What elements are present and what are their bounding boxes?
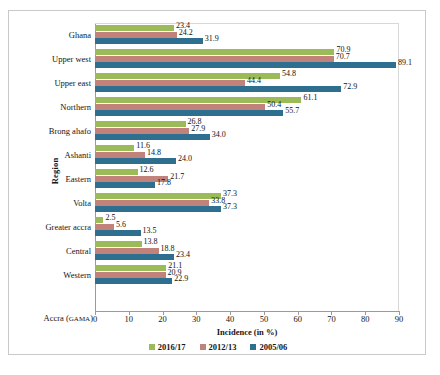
bar-value-label: 17.8 bbox=[157, 180, 171, 186]
accra-smallcaps: GAMA bbox=[69, 315, 90, 323]
x-tick-label: 30 bbox=[181, 314, 211, 324]
x-tick-label: 50 bbox=[249, 314, 279, 324]
accra-suffix: ) bbox=[90, 313, 93, 323]
legend-item[interactable]: 2012/13 bbox=[200, 342, 237, 352]
chart-screenshot: Region 0102030405060708090 Ghana23.424.2… bbox=[0, 0, 440, 375]
bar bbox=[95, 121, 186, 127]
legend-label: 2016/17 bbox=[158, 342, 186, 352]
bar-value-label: 72.9 bbox=[343, 84, 357, 90]
x-tick-label: 90 bbox=[384, 314, 414, 324]
bar bbox=[95, 38, 203, 44]
bar-value-label: 23.4 bbox=[176, 252, 190, 258]
accra-prefix: Accra ( bbox=[44, 313, 69, 323]
bar-value-label: 13.8 bbox=[144, 239, 158, 245]
bar bbox=[95, 145, 134, 151]
bar bbox=[95, 49, 334, 55]
bar-value-label: 27.9 bbox=[191, 126, 205, 132]
bar-value-label: 89.1 bbox=[398, 60, 412, 66]
bar-value-label: 61.1 bbox=[303, 95, 317, 101]
x-axis-line bbox=[95, 311, 400, 312]
bar bbox=[95, 152, 145, 158]
category-label: Upper east bbox=[7, 78, 91, 88]
category-label: Central bbox=[7, 246, 91, 256]
bar-value-label: 24.2 bbox=[179, 30, 193, 36]
bar bbox=[95, 200, 209, 206]
bar-group: Western21.120.922.9 bbox=[95, 263, 399, 287]
bar-group: Eastern12.621.717.8 bbox=[95, 167, 399, 191]
bar-value-label: 54.8 bbox=[282, 71, 296, 77]
bar bbox=[95, 25, 174, 31]
bar-value-label: 37.3 bbox=[223, 191, 237, 197]
category-label: Upper west bbox=[7, 54, 91, 64]
bar-group: Upper west70.970.789.1 bbox=[95, 47, 399, 71]
category-label: Ghana bbox=[7, 30, 91, 40]
bar-group: Ashanti11.614.824.0 bbox=[95, 143, 399, 167]
category-label: Greater accra bbox=[7, 222, 91, 232]
bar-value-label: 50.4 bbox=[267, 102, 281, 108]
bar bbox=[95, 80, 245, 86]
x-tick-label: 70 bbox=[316, 314, 346, 324]
legend-label: 2012/13 bbox=[209, 342, 237, 352]
category-label: Eastern bbox=[7, 174, 91, 184]
legend-item[interactable]: 2016/17 bbox=[149, 342, 186, 352]
chart-frame: Region 0102030405060708090 Ghana23.424.2… bbox=[8, 10, 426, 355]
bar bbox=[95, 254, 174, 260]
bar-value-label: 37.3 bbox=[223, 204, 237, 210]
bar-value-label: 55.7 bbox=[285, 108, 299, 114]
bar-value-label: 18.8 bbox=[161, 246, 175, 252]
bar bbox=[95, 56, 334, 62]
bar-group bbox=[95, 287, 399, 311]
bar-value-label: 21.7 bbox=[170, 174, 184, 180]
legend-item[interactable]: 2005/06 bbox=[250, 342, 287, 352]
bar-group: Upper east54.844.472.9 bbox=[95, 71, 399, 95]
bar bbox=[95, 158, 176, 164]
bar-value-label: 2.5 bbox=[105, 215, 115, 221]
bar bbox=[95, 278, 172, 284]
legend-label: 2005/06 bbox=[259, 342, 287, 352]
bar-value-label: 12.6 bbox=[140, 167, 154, 173]
legend-swatch-icon bbox=[149, 344, 155, 350]
bar bbox=[95, 248, 159, 254]
bar-group: Ghana23.424.231.9 bbox=[95, 23, 399, 47]
bar bbox=[95, 182, 155, 188]
bar-value-label: 22.9 bbox=[174, 276, 188, 282]
x-tick-label: 40 bbox=[215, 314, 245, 324]
bar-value-label: 31.9 bbox=[205, 36, 219, 42]
bar-group: Brong ahafo26.827.934.0 bbox=[95, 119, 399, 143]
x-tick-label: 80 bbox=[350, 314, 380, 324]
bar bbox=[95, 241, 142, 247]
category-label: Western bbox=[7, 270, 91, 280]
bar bbox=[95, 104, 265, 110]
category-label: Volta bbox=[7, 198, 91, 208]
bar-value-label: 70.7 bbox=[336, 54, 350, 60]
bar bbox=[95, 224, 114, 230]
bar bbox=[95, 62, 396, 68]
bar bbox=[95, 265, 166, 271]
bar bbox=[95, 217, 103, 223]
bar bbox=[95, 169, 138, 175]
bar-group: Central13.818.823.4 bbox=[95, 239, 399, 263]
bar-value-label: 24.0 bbox=[178, 156, 192, 162]
category-label: Ashanti bbox=[7, 150, 91, 160]
bar bbox=[95, 206, 221, 212]
category-label: Northern bbox=[7, 102, 91, 112]
bar bbox=[95, 272, 166, 278]
bar-value-label: 5.6 bbox=[116, 222, 126, 228]
chart-legend: 2016/172012/132005/06 bbox=[9, 342, 427, 352]
legend-swatch-icon bbox=[200, 344, 206, 350]
bar-group: Northern61.150.455.7 bbox=[95, 95, 399, 119]
bar bbox=[95, 32, 177, 38]
x-axis-title: Incidence (in %) bbox=[95, 327, 399, 337]
bar bbox=[95, 193, 221, 199]
x-tick-label: 20 bbox=[148, 314, 178, 324]
bar bbox=[95, 110, 283, 116]
category-label: Brong ahafo bbox=[7, 126, 91, 136]
legend-swatch-icon bbox=[250, 344, 256, 350]
bar bbox=[95, 86, 341, 92]
bar bbox=[95, 134, 210, 140]
bar-value-label: 13.5 bbox=[143, 228, 157, 234]
x-tick-label: 60 bbox=[283, 314, 313, 324]
category-label-accra-gama: Accra (GAMA) bbox=[9, 313, 93, 323]
bar-value-label: 14.8 bbox=[147, 150, 161, 156]
bar-chart: Region 0102030405060708090 Ghana23.424.2… bbox=[9, 11, 427, 356]
